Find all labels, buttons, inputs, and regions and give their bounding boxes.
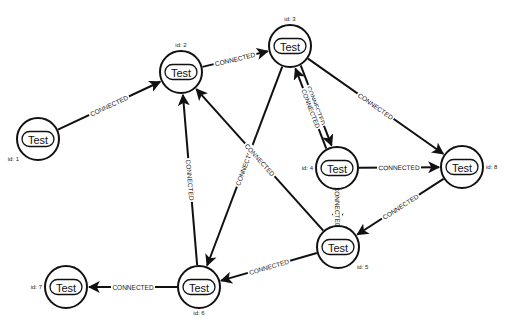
node-id-label: id: 8 xyxy=(486,164,498,170)
edge-2-3[interactable]: CONNECTED xyxy=(202,50,267,69)
edge-4-8[interactable]: CONNECTED xyxy=(359,163,439,172)
edge-6-7[interactable]: CONNECTED xyxy=(89,283,177,292)
graph-canvas: CONNECTEDCONNECTEDCONNECTEDCONNECTEDCONN… xyxy=(0,0,509,331)
node-3[interactable]: Testid: 3 xyxy=(269,16,311,67)
node-8[interactable]: Testid: 8 xyxy=(441,146,498,188)
edge-label-group: CONNECTED xyxy=(355,90,396,123)
edge-label-group: CONNECTED xyxy=(379,191,421,222)
node-id-label: id: 2 xyxy=(175,42,187,48)
edges-layer: CONNECTEDCONNECTEDCONNECTEDCONNECTEDCONN… xyxy=(58,50,444,292)
node-id-label: id: 7 xyxy=(31,284,43,290)
edge-label-group: CONNECTED xyxy=(213,50,258,69)
node-id-label: id: 1 xyxy=(8,156,20,162)
node-7[interactable]: Testid: 7 xyxy=(31,266,87,308)
edge-1-2[interactable]: CONNECTED xyxy=(58,82,160,130)
edge-8-5[interactable]: CONNECTED xyxy=(357,179,443,235)
edge-label: CONNECTED xyxy=(112,284,153,291)
edge-label: CONNECTED xyxy=(357,92,395,122)
edge-4-5[interactable]: CONNECTED xyxy=(333,185,343,229)
node-label: Test xyxy=(280,41,300,53)
node-label: Test xyxy=(452,162,472,174)
node-2[interactable]: Testid: 2 xyxy=(160,42,202,93)
node-id-label: id: 3 xyxy=(284,16,296,22)
node-label: Test xyxy=(328,242,348,254)
edge-label: CONNECTED xyxy=(89,94,130,118)
node-id-label: id: 6 xyxy=(193,310,205,316)
edge-label: CONNECTED xyxy=(378,164,420,171)
edge-6-2[interactable]: CONNECTED xyxy=(183,95,197,265)
node-1[interactable]: Testid: 1 xyxy=(8,118,59,162)
node-6[interactable]: Testid: 6 xyxy=(178,266,220,316)
edge-label-group: CONNECTED xyxy=(87,92,131,119)
edge-label: CONNECTED xyxy=(334,186,342,228)
edge-label: CONNECTED xyxy=(214,51,256,67)
edge-label-group: CONNECTED xyxy=(333,185,343,229)
node-label: Test xyxy=(171,67,191,79)
node-id-label: id: 5 xyxy=(357,264,369,270)
edge-5-2[interactable]: CONNECTED xyxy=(196,89,323,231)
node-label: Test xyxy=(56,282,76,294)
edge-label-group: CONNECTED xyxy=(184,158,197,203)
node-4[interactable]: Testid: 4 xyxy=(302,147,358,189)
edge-label-group: CONNECTED xyxy=(377,163,421,172)
edge-5-6[interactable]: CONNECTED xyxy=(221,253,317,281)
node-label: Test xyxy=(189,282,209,294)
node-id-label: id: 4 xyxy=(302,165,314,171)
edge-label-group: CONNECTED xyxy=(247,256,292,277)
node-label: Test xyxy=(28,134,48,146)
edge-label: CONNECTED xyxy=(381,192,420,220)
edge-label-group: CONNECTED xyxy=(111,283,155,292)
node-label: Test xyxy=(327,163,347,175)
